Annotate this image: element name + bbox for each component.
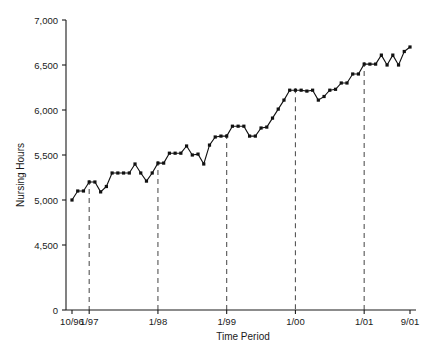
data-point-marker xyxy=(248,135,251,138)
nursing-hours-chart: 04,5005,0005,5006,0006,5007,000 10/961/9… xyxy=(0,0,425,351)
data-point-marker xyxy=(391,54,394,57)
data-point-marker xyxy=(168,152,171,155)
data-point-marker xyxy=(317,99,320,102)
data-point-marker xyxy=(70,198,73,201)
data-point-marker xyxy=(322,95,325,98)
data-point-marker xyxy=(363,63,366,66)
data-point-marker xyxy=(196,153,199,156)
data-point-marker xyxy=(111,171,114,174)
data-point-marker xyxy=(88,180,91,183)
data-point-marker xyxy=(122,171,125,174)
data-point-marker xyxy=(208,144,211,147)
data-point-marker xyxy=(219,135,222,138)
data-point-marker xyxy=(191,153,194,156)
data-point-marker xyxy=(374,63,377,66)
data-point-marker xyxy=(351,72,354,75)
data-point-marker xyxy=(231,125,234,128)
data-point-marker xyxy=(305,90,308,93)
data-point-marker xyxy=(271,117,274,120)
data-point-marker xyxy=(340,81,343,84)
y-tick-label: 6,500 xyxy=(34,60,58,71)
data-point-marker xyxy=(105,185,108,188)
x-tick-label: 1/00 xyxy=(286,316,305,327)
data-point-marker xyxy=(237,125,240,128)
data-point-marker xyxy=(99,190,102,193)
y-tick-label: 6,000 xyxy=(34,105,58,116)
data-point-marker xyxy=(93,180,96,183)
data-point-marker xyxy=(145,180,148,183)
data-point-marker xyxy=(202,162,205,165)
data-point-marker xyxy=(397,63,400,66)
x-tick-label: 1/99 xyxy=(217,316,236,327)
data-point-marker xyxy=(254,135,257,138)
data-point-marker xyxy=(76,189,79,192)
data-point-marker xyxy=(380,54,383,57)
data-point-marker xyxy=(368,63,371,66)
y-axis-title: Nursing Hours xyxy=(15,143,26,207)
x-axis-title: Time Period xyxy=(216,331,270,342)
data-point-marker xyxy=(403,50,406,53)
data-point-marker xyxy=(311,89,314,92)
data-point-marker xyxy=(185,144,188,147)
y-tick-label: 5,000 xyxy=(34,195,58,206)
data-point-marker xyxy=(259,126,262,129)
data-point-marker xyxy=(214,135,217,138)
data-point-marker xyxy=(128,171,131,174)
data-point-marker xyxy=(139,171,142,174)
y-tick-label: 5,500 xyxy=(34,150,58,161)
data-point-marker xyxy=(265,126,268,129)
data-point-marker xyxy=(288,89,291,92)
data-point-marker xyxy=(277,108,280,111)
data-point-marker xyxy=(357,72,360,75)
data-point-marker xyxy=(282,99,285,102)
data-point-marker xyxy=(385,63,388,66)
chart-canvas: 04,5005,0005,5006,0006,5007,000 10/961/9… xyxy=(0,0,425,351)
y-tick-label: 7,000 xyxy=(34,15,58,26)
data-point-marker xyxy=(151,171,154,174)
data-point-marker xyxy=(345,81,348,84)
data-point-marker xyxy=(334,88,337,91)
data-point-marker xyxy=(300,89,303,92)
y-tick-label: 0 xyxy=(53,305,58,316)
data-point-marker xyxy=(82,189,85,192)
data-point-marker xyxy=(408,45,411,48)
x-tick-label: 9/01 xyxy=(401,316,420,327)
data-point-marker xyxy=(328,89,331,92)
data-point-marker xyxy=(242,125,245,128)
plot-background xyxy=(0,0,425,351)
x-tick-label: 1/01 xyxy=(355,316,374,327)
data-point-marker xyxy=(294,89,297,92)
data-point-marker xyxy=(179,152,182,155)
x-tick-label: 1/98 xyxy=(149,316,168,327)
data-point-marker xyxy=(156,162,159,165)
data-point-marker xyxy=(116,171,119,174)
y-tick-label: 4,500 xyxy=(34,240,58,251)
data-point-marker xyxy=(174,152,177,155)
data-point-marker xyxy=(162,162,165,165)
data-point-marker xyxy=(133,162,136,165)
x-tick-label: 1/97 xyxy=(80,316,99,327)
data-point-marker xyxy=(225,135,228,138)
